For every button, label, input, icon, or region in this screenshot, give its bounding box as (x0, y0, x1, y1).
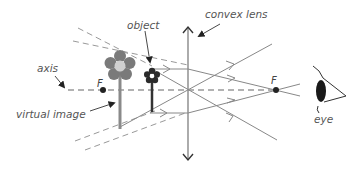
virtual-image-label: virtual image (16, 108, 86, 120)
focal-label-right: F (271, 75, 277, 86)
light-rays (120, 44, 300, 140)
object-flower-icon (144, 68, 160, 112)
axis-pointer-arrow-icon (55, 76, 64, 87)
convex-lens-label: convex lens (205, 8, 268, 20)
virtual-rays (73, 28, 188, 150)
lens-pointer-arrow-icon (199, 24, 220, 36)
object-label: object (127, 19, 160, 31)
focal-point-right (273, 87, 279, 93)
virtual-image-pointer-arrow-icon (90, 103, 114, 111)
convex-lens-diagram: F F object convex l (0, 0, 363, 169)
convex-lens (183, 27, 193, 160)
eye-icon (313, 66, 346, 113)
axis-label: axis (37, 62, 59, 74)
object-pointer-arrow-icon (145, 31, 150, 62)
eye-label: eye (314, 113, 333, 125)
focal-label-left: F (97, 78, 103, 89)
